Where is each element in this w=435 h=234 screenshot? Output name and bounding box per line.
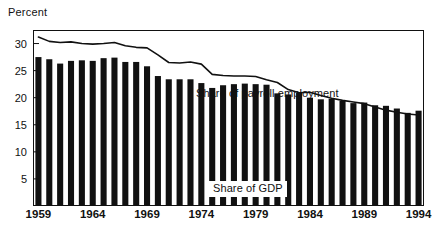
x-tick-label: 1994 <box>406 208 432 221</box>
bar <box>111 58 117 206</box>
bar <box>101 58 107 206</box>
annotation-share-of-gdp: Share of GDP <box>209 181 287 197</box>
x-tick-label: 1964 <box>80 208 106 221</box>
bar <box>46 59 52 206</box>
bar <box>177 79 183 206</box>
bar <box>35 57 41 206</box>
bar <box>79 60 85 206</box>
y-tick-label: 15 <box>15 119 27 130</box>
y-tick-label: 25 <box>15 65 27 76</box>
x-tick-label: 1969 <box>134 208 160 221</box>
bar <box>187 79 193 206</box>
bar <box>122 62 128 206</box>
x-axis-tick-labels: 19591964196919741979198419891994 <box>33 208 424 228</box>
chart-figure: Percent 51015202530 Share of payroll emp… <box>0 0 435 234</box>
x-tick-label: 1974 <box>189 208 215 221</box>
bar <box>405 113 411 206</box>
bar <box>296 93 302 206</box>
bar <box>318 99 324 206</box>
bar <box>90 61 96 206</box>
bar <box>340 101 346 206</box>
bar <box>383 106 389 206</box>
x-tick-label: 1989 <box>352 208 378 221</box>
y-tick-label: 20 <box>15 92 27 103</box>
bar <box>394 109 400 206</box>
y-tick-label: 5 <box>21 173 27 184</box>
bar <box>57 64 63 206</box>
bar <box>144 66 150 206</box>
x-tick-label: 1959 <box>26 208 52 221</box>
bar <box>68 61 74 206</box>
chart-canvas <box>33 30 424 206</box>
bar <box>155 76 161 206</box>
bar <box>133 62 139 206</box>
bar <box>361 103 367 206</box>
y-tick-label: 30 <box>15 38 27 49</box>
bar <box>198 83 204 206</box>
plot-area: Share of payroll employment Share of GDP <box>33 30 424 206</box>
bar <box>350 103 356 206</box>
bar <box>166 79 172 206</box>
bar <box>329 99 335 206</box>
y-tick-label: 10 <box>15 146 27 157</box>
bar <box>372 105 378 206</box>
annotation-share-of-payroll-employment: Share of payroll employment <box>196 87 339 100</box>
y-axis-title: Percent <box>8 6 47 19</box>
y-axis-tick-labels: 51015202530 <box>0 30 33 206</box>
bar <box>416 111 422 206</box>
bar <box>307 98 313 206</box>
x-tick-label: 1984 <box>297 208 323 221</box>
x-tick-label: 1979 <box>243 208 269 221</box>
